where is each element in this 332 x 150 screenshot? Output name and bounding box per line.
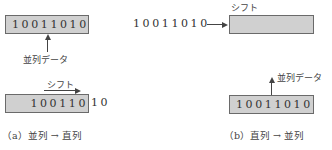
arrow-up-icon (269, 77, 275, 83)
arrow-right-icon (222, 22, 228, 28)
register-a-bottom: 100110 (5, 94, 89, 113)
serial-arrow-b-shaft (207, 24, 223, 25)
register-b-bottom: 10011010 (229, 95, 314, 114)
serial-input-b: 10011010 (133, 17, 210, 30)
register-a-bottom-inside: 100110 (30, 97, 88, 110)
caption-b: （b）直列 → 並列 (224, 128, 304, 142)
parallel-data-label-b: 並列データ (277, 71, 322, 84)
register-b-top (229, 15, 314, 34)
arrow-up-icon (45, 34, 51, 40)
register-a-top: 10011010 (5, 15, 89, 34)
caption-a: （a）並列 → 直列 (2, 128, 82, 142)
register-b-bottom-value: 10011010 (236, 98, 313, 111)
register-a-top-value: 10011010 (12, 18, 89, 31)
shift-arrow-a-shaft (44, 90, 76, 91)
shift-label-b: シフト (231, 1, 258, 14)
arrow-right-icon (75, 88, 81, 94)
register-a-shifted-out: 10 (91, 96, 110, 109)
parallel-data-label-a: 並列データ (23, 53, 68, 66)
